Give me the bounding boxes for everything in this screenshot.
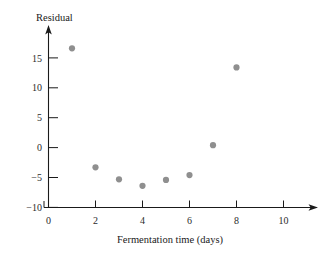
- data-point: [92, 164, 98, 170]
- x-tick-label-4: 4: [140, 215, 145, 226]
- data-point: [233, 64, 239, 70]
- y-axis-title: Residual: [36, 12, 73, 23]
- data-point: [116, 176, 122, 182]
- data-point: [139, 183, 145, 189]
- y-tick-label-neg10: −10: [26, 202, 42, 213]
- x-axis-tick-labels: 0 2 4 6 8 10: [46, 215, 289, 226]
- x-axis-title: Fermentation time (days): [117, 234, 224, 246]
- x-tick-label-6: 6: [187, 215, 192, 226]
- data-point: [163, 177, 169, 183]
- data-point: [186, 172, 192, 178]
- x-tick-label-0: 0: [46, 215, 51, 226]
- y-tick-label-0: 0: [37, 142, 42, 153]
- y-tick-label-5: 5: [37, 112, 42, 123]
- x-tick-label-10: 10: [279, 215, 289, 226]
- y-tick-label-15: 15: [32, 53, 42, 64]
- data-point: [210, 142, 216, 148]
- y-axis-ticks: [49, 58, 59, 208]
- x-tick-label-2: 2: [93, 215, 98, 226]
- y-tick-label-10: 10: [32, 82, 42, 93]
- scatter-plot-canvas: 15 10 5 0 −5 −10 0 2 4 6 8 10 Residual F…: [0, 0, 333, 254]
- x-axis-ticks: [49, 201, 284, 208]
- y-axis-tick-labels: 15 10 5 0 −5 −10: [26, 53, 42, 214]
- data-point: [69, 45, 75, 51]
- residual-scatter-figure: 15 10 5 0 −5 −10 0 2 4 6 8 10 Residual F…: [0, 0, 333, 254]
- data-points-group: [69, 45, 240, 189]
- y-tick-label-neg5: −5: [31, 172, 42, 183]
- x-tick-label-8: 8: [234, 215, 239, 226]
